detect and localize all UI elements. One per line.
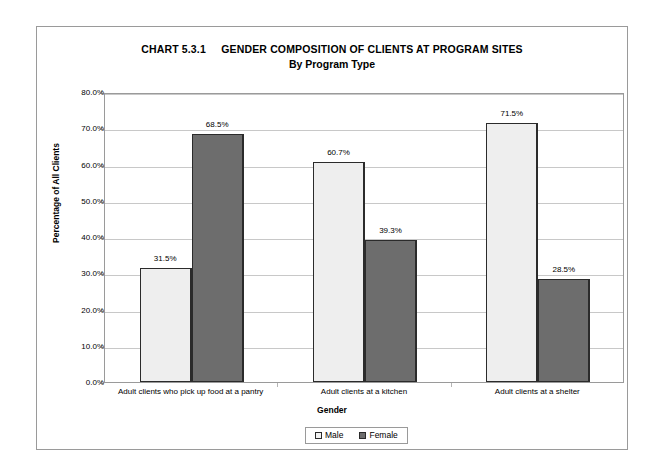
legend-item-female: Female xyxy=(359,431,397,440)
legend-swatch-female-icon xyxy=(359,432,366,439)
bar-value-label: 31.5% xyxy=(154,255,177,263)
y-axis-tick-mark xyxy=(100,383,104,384)
y-axis-tick-label: 50.0% xyxy=(60,198,104,206)
bar-male-3: 71.5% xyxy=(486,123,538,382)
x-axis-category-label: Adult clients at a kitchen xyxy=(277,387,450,397)
bar-value-label: 71.5% xyxy=(500,110,523,118)
bar-value-label: 60.7% xyxy=(327,149,350,157)
y-axis-tick-label: 40.0% xyxy=(60,234,104,242)
gridline xyxy=(105,94,623,95)
y-axis-tick-label: 10.0% xyxy=(60,343,104,351)
y-axis-tick-label: 0.0% xyxy=(60,379,104,387)
legend-label: Female xyxy=(369,431,397,440)
chart-subtitle: By Program Type xyxy=(37,58,627,70)
chart-title-block: CHART 5.3.1 GENDER COMPOSITION OF CLIENT… xyxy=(37,43,627,70)
x-axis-title: Gender xyxy=(37,405,627,415)
legend-item-male: Male xyxy=(315,431,343,440)
x-axis-category-label: Adult clients who pick up food at a pant… xyxy=(104,387,277,397)
x-axis-category-separator xyxy=(277,383,278,387)
bar-value-label: 68.5% xyxy=(206,121,229,129)
y-axis-tick-label: 30.0% xyxy=(60,270,104,278)
x-axis-category-separator xyxy=(451,383,452,387)
chart-frame: CHART 5.3.1 GENDER COMPOSITION OF CLIENT… xyxy=(36,26,628,450)
bar-female-3: 28.5% xyxy=(538,279,590,382)
bar-female-1: 68.5% xyxy=(192,134,244,382)
bar-value-label: 39.3% xyxy=(379,227,402,235)
y-axis-tick-label: 80.0% xyxy=(60,89,104,97)
legend-swatch-male-icon xyxy=(315,432,322,439)
bar-value-label: 28.5% xyxy=(552,266,575,274)
x-axis-categories: Adult clients who pick up food at a pant… xyxy=(104,387,624,403)
x-axis-category-label: Adult clients at a shelter xyxy=(451,387,624,397)
bar-male-2: 60.7% xyxy=(313,162,365,382)
gridline xyxy=(105,130,623,131)
bar-male-1: 31.5% xyxy=(140,268,192,382)
y-axis-tick-label: 60.0% xyxy=(60,162,104,170)
y-axis-tick-label: 70.0% xyxy=(60,125,104,133)
bar-female-2: 39.3% xyxy=(365,240,417,382)
y-axis-tick-label: 20.0% xyxy=(60,307,104,315)
legend-label: Male xyxy=(325,431,343,440)
plot-area: 31.5%68.5%60.7%39.3%71.5%28.5% xyxy=(104,93,624,383)
chart-title: CHART 5.3.1 GENDER COMPOSITION OF CLIENT… xyxy=(37,43,627,55)
y-axis: 0.0%10.0%20.0%30.0%40.0%50.0%60.0%70.0%8… xyxy=(51,93,104,383)
chart-legend: MaleFemale xyxy=(305,427,408,444)
